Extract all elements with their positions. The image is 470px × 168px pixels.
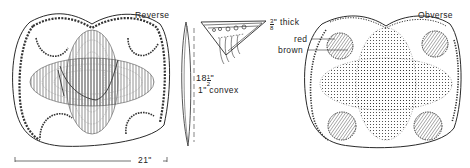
reverse-view xyxy=(13,14,170,147)
cross-section-detail xyxy=(201,21,266,64)
disc-top-left xyxy=(327,33,353,59)
obverse-view xyxy=(305,16,462,148)
brown-callout-label: brown xyxy=(278,46,303,55)
reverse-label: Reverse xyxy=(135,11,169,20)
crescent-bottom-right xyxy=(126,113,154,134)
crescent-bottom-left xyxy=(40,114,72,138)
obverse-label: Obverse xyxy=(418,11,453,20)
convexity-label: 1" convex xyxy=(198,86,239,95)
shield-illustration xyxy=(0,0,470,168)
height-unit: " xyxy=(211,73,215,83)
height-whole: 18 xyxy=(196,73,207,83)
crescent-top-left xyxy=(36,38,68,56)
disc-bottom-right xyxy=(414,112,442,140)
width-dimension-label: 21" xyxy=(138,156,152,165)
thickness-label: 38" thick xyxy=(270,18,299,31)
profile-view xyxy=(182,22,194,146)
disc-bottom-left xyxy=(328,112,356,140)
disc-top-right xyxy=(422,31,448,57)
red-callout-label: red xyxy=(294,35,308,44)
thickness-text: " thick xyxy=(274,17,300,27)
crescent-top-right xyxy=(128,38,158,55)
